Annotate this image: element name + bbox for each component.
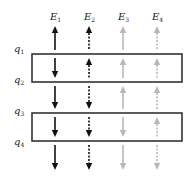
arrow-up-icon [86, 26, 92, 50]
arrow-up-icon [52, 26, 58, 50]
arrow-up-icon [86, 58, 92, 78]
arrow-down-icon [52, 86, 58, 109]
row-label-q3: q3 [14, 105, 24, 117]
arrow-up-icon [154, 117, 160, 137]
arrow-down-icon [86, 117, 92, 137]
arrow-up-icon [120, 86, 126, 109]
arrow-up-icon [154, 58, 160, 78]
arrow-up-icon [120, 26, 126, 50]
column-label-e4: E4 [151, 11, 163, 23]
arrow-down-icon [120, 117, 126, 137]
column-label-e2: E2 [83, 11, 95, 23]
row-label-q1: q1 [14, 43, 24, 55]
arrow-down-icon [120, 145, 126, 170]
row-label-q2: q2 [14, 74, 24, 86]
arrow-down-icon [86, 145, 92, 170]
arrow-down-icon [52, 117, 58, 137]
arrow-down-icon [52, 58, 58, 78]
arrow-down-icon [154, 145, 160, 170]
row-labels: q1q2q3q4 [14, 43, 24, 148]
column-label-e1: E1 [49, 11, 61, 23]
arrow-down-icon [86, 86, 92, 109]
arrows [52, 26, 160, 170]
arrow-down-icon [52, 145, 58, 170]
field-diagram: E1E2E3E4 q1q2q3q4 [0, 0, 195, 178]
column-labels: E1E2E3E4 [49, 11, 163, 23]
row-label-q4: q4 [14, 136, 24, 148]
arrow-up-icon [120, 58, 126, 78]
arrow-up-icon [154, 26, 160, 50]
column-label-e3: E3 [117, 11, 129, 23]
arrow-up-icon [154, 86, 160, 109]
